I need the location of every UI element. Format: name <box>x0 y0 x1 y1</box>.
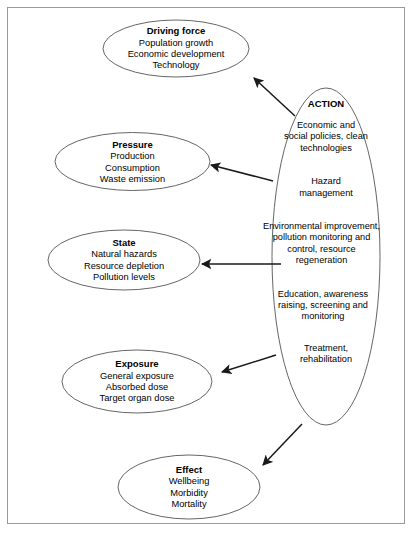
node-line: Morbidity <box>170 488 208 499</box>
action-group-education: Education, awareness raising, screening … <box>263 289 383 323</box>
action-group-hazard: Hazard management <box>272 176 380 199</box>
action-group-policies: Economic and social policies, clean tech… <box>272 120 380 154</box>
node-line: Absorbed dose <box>106 382 169 393</box>
node-effect: Effect Wellbeing Morbidity Mortality <box>118 455 260 519</box>
action-line: technologies <box>272 143 380 154</box>
action-line: Environmental improvement, <box>259 221 385 232</box>
arrow-action-to-pressure <box>211 165 273 181</box>
action-title-group: ACTION <box>272 98 380 109</box>
action-line: Economic and <box>272 120 380 131</box>
arrow-action-to-exposure <box>222 355 276 372</box>
node-line: Target organ dose <box>100 393 175 404</box>
action-line: Treatment, <box>272 343 380 354</box>
node-line: General exposure <box>100 371 174 382</box>
action-line: Hazard <box>272 176 380 187</box>
node-line: Waste emission <box>100 174 165 185</box>
action-line: Education, awareness <box>263 289 383 300</box>
action-line: raising, screening and <box>263 300 383 311</box>
action-line: control, resource <box>259 244 385 255</box>
node-line: Natural hazards <box>91 249 157 260</box>
node-title: Exposure <box>115 358 158 370</box>
action-line: rehabilitation <box>272 354 380 365</box>
action-group-treatment: Treatment, rehabilitation <box>272 343 380 366</box>
node-line: Technology <box>152 60 199 71</box>
node-line: Resource depletion <box>84 261 164 272</box>
action-line: pollution monitoring and <box>259 232 385 243</box>
action-line: monitoring <box>263 311 383 322</box>
node-action: ACTION Economic and social policies, cle… <box>272 88 380 425</box>
node-line: Mortality <box>171 499 206 510</box>
node-driving-force: Driving force Population growth Economic… <box>103 20 249 77</box>
node-line: Production <box>110 151 154 162</box>
node-title: Effect <box>176 464 202 476</box>
action-title: ACTION <box>272 98 380 109</box>
action-group-environment: Environmental improvement, pollution mon… <box>259 221 385 267</box>
node-title: Driving force <box>147 25 206 37</box>
node-pressure: Pressure Production Consumption Waste em… <box>55 133 210 191</box>
action-line: social policies, clean <box>272 131 380 142</box>
node-exposure: Exposure General exposure Absorbed dose … <box>62 350 212 413</box>
node-line: Consumption <box>105 163 160 174</box>
node-line: Wellbeing <box>169 476 210 487</box>
node-line: Pollution levels <box>93 272 155 283</box>
action-line: management <box>272 188 380 199</box>
node-line: Economic development <box>128 49 225 60</box>
node-state: State Natural hazards Resource depletion… <box>48 230 200 290</box>
node-title: Pressure <box>112 139 153 151</box>
node-line: Population growth <box>139 38 213 49</box>
action-line: regeneration <box>259 255 385 266</box>
arrow-action-to-effect <box>263 424 302 465</box>
node-title: State <box>112 237 135 249</box>
